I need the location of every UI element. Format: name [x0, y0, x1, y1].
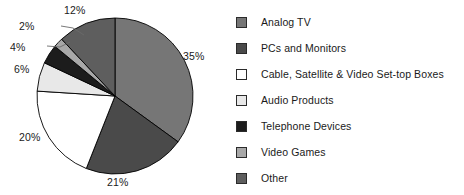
legend-label-cable-satellite-settop: Cable, Satellite & Video Set-top Boxes: [261, 68, 444, 80]
slice-percent-label-cable-satellite-settop: 20%: [19, 131, 41, 143]
legend-item-telephone-devices[interactable]: Telephone Devices: [234, 113, 464, 139]
legend-label-telephone-devices: Telephone Devices: [261, 120, 351, 132]
legend-item-analog-tv[interactable]: Analog TV: [234, 9, 464, 35]
slice-percent-label-pcs-and-monitors: 21%: [107, 176, 129, 188]
legend-label-video-games: Video Games: [261, 146, 326, 158]
legend-swatch-audio-products: [236, 95, 247, 106]
slice-percent-label-telephone-devices: 4%: [10, 41, 26, 53]
legend-item-video-games[interactable]: Video Games: [234, 139, 464, 165]
legend: Analog TVPCs and MonitorsCable, Satellit…: [234, 9, 464, 189]
legend-swatch-analog-tv: [236, 17, 247, 28]
legend-label-other: Other: [261, 172, 288, 184]
slice-percent-label-audio-products: 6%: [14, 63, 30, 75]
legend-swatch-pcs-and-monitors: [236, 43, 247, 54]
pie-svg: [0, 0, 232, 195]
slice-percent-label-other: 12%: [64, 4, 86, 16]
pie-plot-area: 35%21%20%6%4%2%12%: [0, 0, 232, 195]
legend-label-pcs-and-monitors: PCs and Monitors: [261, 42, 346, 54]
legend-swatch-telephone-devices: [236, 121, 247, 132]
legend-swatch-cable-satellite-settop: [236, 69, 247, 80]
pie-slices-group: [37, 18, 193, 174]
legend-item-pcs-and-monitors[interactable]: PCs and Monitors: [234, 35, 464, 61]
legend-label-analog-tv: Analog TV: [261, 16, 311, 28]
legend-item-cable-satellite-settop[interactable]: Cable, Satellite & Video Set-top Boxes: [234, 61, 464, 87]
legend-item-audio-products[interactable]: Audio Products: [234, 87, 464, 113]
legend-item-other[interactable]: Other: [234, 165, 464, 191]
legend-swatch-other: [236, 173, 247, 184]
slice-percent-label-analog-tv: 35%: [183, 50, 205, 62]
legend-label-audio-products: Audio Products: [261, 94, 334, 106]
slice-percent-label-video-games: 2%: [19, 20, 35, 32]
legend-swatch-video-games: [236, 147, 247, 158]
pie-chart-figure: 35%21%20%6%4%2%12% Analog TVPCs and Moni…: [0, 0, 464, 195]
